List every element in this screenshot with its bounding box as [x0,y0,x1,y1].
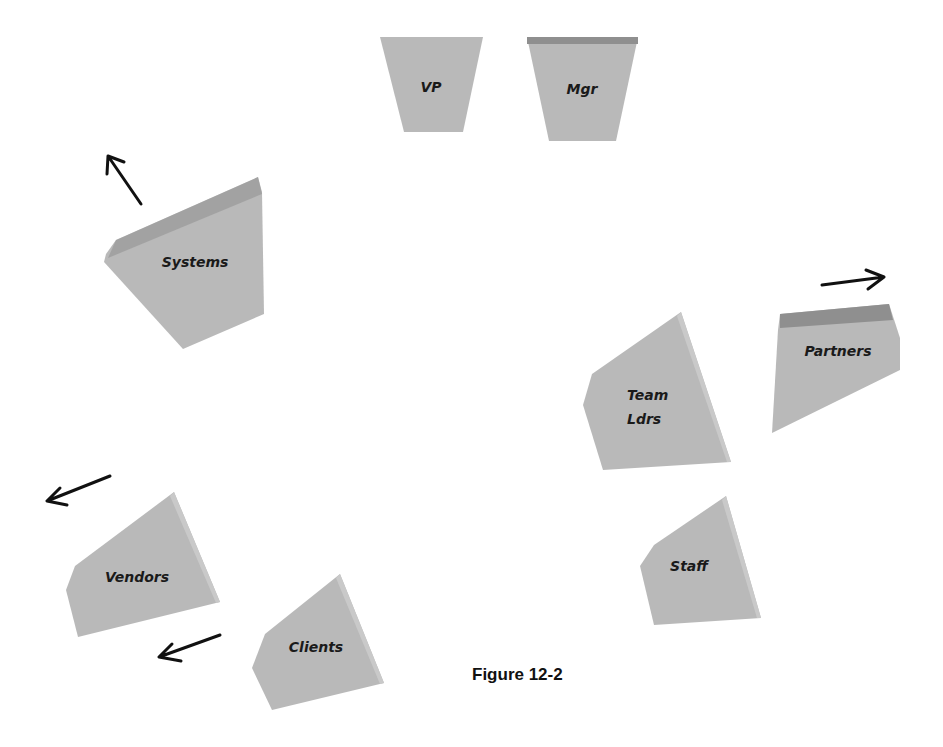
block-vendors: Vendors [66,492,220,637]
block-mgr: Mgr [527,37,638,141]
block-label: Partners [804,343,871,359]
block-label: VP [420,79,442,95]
block-team-ldrs: Team Ldrs [583,312,731,470]
org-diagram: VP Mgr Systems Team Ldrs Partners Staff [0,0,943,747]
figure-caption: Figure 12-2 [472,665,563,685]
block-label: Vendors [105,569,169,585]
block-staff: Staff [640,496,761,625]
block-clients: Clients [252,574,384,710]
block-label: Clients [289,639,343,655]
arrow-up-left-icon [107,156,141,204]
block-systems: Systems [104,177,264,349]
block-label: Mgr [567,81,599,97]
arrow-down-left-icon [47,476,110,505]
block-label: Staff [670,558,709,574]
block-label-line2: Ldrs [627,411,661,427]
block-partners: Partners [772,304,900,433]
arrow-right-icon [822,270,884,289]
block-vp: VP [380,37,483,132]
arrow-down-left-icon [159,635,220,661]
block-label: Systems [162,254,229,270]
block-label-line1: Team [627,387,668,403]
